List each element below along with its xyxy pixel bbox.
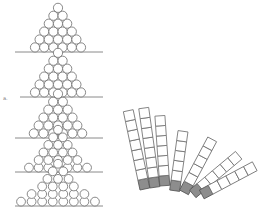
shaded-square [149,177,160,188]
ball [44,140,53,149]
ball [91,197,100,206]
square [171,170,182,181]
ball [38,182,47,191]
ball [17,197,26,206]
square [146,157,157,168]
ball [39,148,48,157]
square [158,165,169,176]
ball [53,3,62,12]
ball [54,174,63,183]
ball [58,133,67,142]
ball [64,174,73,183]
ball [54,140,63,149]
ball [48,182,57,191]
square [174,150,185,161]
margin-mark: a. [3,95,8,101]
square [156,135,167,146]
ball [49,133,58,142]
ball [53,48,62,57]
square [123,110,135,122]
ball [48,167,57,176]
shaded-square [170,180,181,191]
ball [54,125,63,134]
square [175,140,186,151]
square [155,115,166,126]
ball [80,190,89,199]
ball [44,156,53,165]
ball-piles-group [15,3,103,206]
ball [69,182,78,191]
ball [58,148,67,157]
ball [43,174,52,183]
pile-2 [20,48,103,97]
square [177,131,188,142]
square [157,145,168,156]
ball [34,156,43,165]
pile-1 [15,3,103,52]
square [156,125,167,136]
illustration-figure: a. [0,0,274,222]
ball [63,156,72,165]
ball [25,163,34,172]
square [158,155,169,166]
ball [63,140,72,149]
square [139,107,150,118]
square-fan-group [123,107,257,198]
square [147,167,158,178]
ball [27,190,36,199]
square [172,160,183,171]
square [144,147,155,158]
square [142,127,153,138]
ball [53,89,62,98]
ball [54,159,63,168]
ball [83,163,92,172]
ball [49,148,58,157]
ball [59,167,68,176]
ball [68,148,77,157]
ball [73,156,82,165]
square [143,137,154,148]
ball [59,182,68,191]
square [140,117,151,128]
shaded-square [159,175,170,186]
